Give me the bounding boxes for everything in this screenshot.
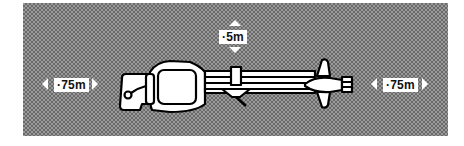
vehicle-illustration xyxy=(0,0,464,146)
